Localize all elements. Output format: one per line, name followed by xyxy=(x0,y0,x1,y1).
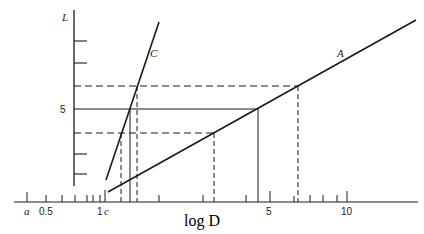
x-axis xyxy=(14,190,418,202)
x-tick-label-c: c xyxy=(104,205,109,217)
curve-c xyxy=(106,22,159,180)
x-axis-label-prefix: log xyxy=(184,212,208,230)
x-tick-label-a: a xyxy=(24,205,30,217)
x-axis-label: log D xyxy=(184,212,220,230)
curve-a xyxy=(108,20,416,192)
reference-lines xyxy=(74,86,298,202)
curve-a-label: A xyxy=(336,47,344,59)
log-dose-response-diagram: L 5 a 0.5 1 c 5 10 log D xyxy=(0,0,424,234)
x-tick-label-10: 10 xyxy=(341,206,353,217)
y-tick-label-5: 5 xyxy=(60,104,66,115)
x-axis-label-var: D xyxy=(208,212,220,229)
x-tick-label-0-5: 0.5 xyxy=(39,206,53,217)
curve-c-label: C xyxy=(150,47,158,59)
y-axis xyxy=(74,10,87,186)
x-tick-label-5: 5 xyxy=(266,206,272,217)
y-axis-label: L xyxy=(61,11,68,23)
x-tick-label-1: 1 xyxy=(97,206,103,217)
